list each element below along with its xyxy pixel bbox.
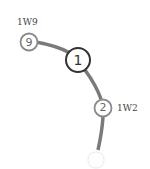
line-segment-9-1 <box>36 42 70 53</box>
line-segment-1-2 <box>85 70 101 99</box>
station-name-1w9: 1W9 <box>17 18 38 27</box>
node-1-number: 1 <box>72 53 84 67</box>
station-name-1w2: 1W2 <box>117 104 138 113</box>
node-9-number: 9 <box>24 37 34 48</box>
line-segment-2-next <box>98 117 103 150</box>
node-2-number: 2 <box>98 102 108 113</box>
station-node-faded <box>88 152 104 168</box>
